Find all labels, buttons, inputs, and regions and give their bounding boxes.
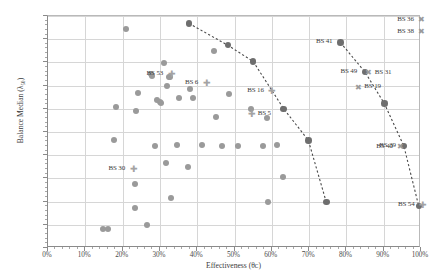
gridline-horizontal xyxy=(48,178,419,179)
gridline-horizontal xyxy=(48,132,419,133)
point-label: BS 41 xyxy=(316,37,333,45)
data-point xyxy=(135,90,141,96)
data-point xyxy=(144,222,150,228)
gridline-vertical xyxy=(346,16,347,246)
x-tick-minor xyxy=(129,247,130,249)
x-tick-mark xyxy=(84,247,85,251)
data-point xyxy=(133,108,139,114)
x-tick-minor xyxy=(99,247,100,249)
x-tick-minor xyxy=(316,247,317,249)
x-tick-minor xyxy=(166,247,167,249)
x-tick-label: 80% xyxy=(325,251,365,259)
x-tick-minor xyxy=(181,247,182,249)
plus-marker: ✚ xyxy=(268,88,275,95)
data-point xyxy=(226,91,232,97)
x-tick-mark xyxy=(196,247,197,251)
x-tick-minor xyxy=(174,247,175,249)
data-point xyxy=(211,48,217,54)
scatter-chart-figure: Balance Median (λ₅₀) Effectiveness (θᴄ) … xyxy=(0,0,444,277)
data-point xyxy=(187,86,193,92)
x-tick-minor xyxy=(248,247,249,249)
gridline-horizontal xyxy=(48,39,419,40)
y-axis-label: Balance Median (λ₅₀) xyxy=(16,31,25,191)
gridline-vertical xyxy=(309,16,310,246)
data-point xyxy=(250,58,257,65)
plus-marker: ✚ xyxy=(248,111,255,118)
data-point xyxy=(132,205,138,211)
gridline-horizontal xyxy=(48,62,419,63)
x-tick-label: 100% xyxy=(400,251,440,259)
data-point xyxy=(213,114,219,120)
point-label: BS 54 xyxy=(398,200,415,208)
x-tick-minor xyxy=(368,247,369,249)
x-tick-minor xyxy=(390,247,391,249)
plus-marker: ✚ xyxy=(168,71,175,78)
x-tick-label: 50% xyxy=(214,251,254,259)
gridline-horizontal xyxy=(48,16,419,17)
data-point xyxy=(111,137,117,143)
x-tick-minor xyxy=(398,247,399,249)
x-tick-minor xyxy=(241,247,242,249)
x-tick-minor xyxy=(301,247,302,249)
cross-marker: ✖ xyxy=(355,84,362,91)
data-point xyxy=(260,143,266,149)
gridline-vertical xyxy=(272,16,273,246)
x-tick-minor xyxy=(405,247,406,249)
gridline-vertical xyxy=(160,16,161,246)
point-label: BS 19 xyxy=(364,82,381,90)
data-point xyxy=(381,100,388,107)
plus-marker: ✚ xyxy=(130,166,137,173)
data-point xyxy=(265,199,271,205)
gridline-vertical xyxy=(123,16,124,246)
x-tick-minor xyxy=(107,247,108,249)
data-point xyxy=(152,143,158,149)
x-tick-minor xyxy=(286,247,287,249)
x-tick-mark xyxy=(234,247,235,251)
x-tick-minor xyxy=(353,247,354,249)
point-label: BS 36 xyxy=(397,15,414,23)
data-point xyxy=(199,142,205,148)
x-tick-minor xyxy=(137,247,138,249)
x-tick-mark xyxy=(308,247,309,251)
x-tick-minor xyxy=(144,247,145,249)
x-tick-minor xyxy=(114,247,115,249)
gridline-vertical xyxy=(85,16,86,246)
x-tick-mark xyxy=(271,247,272,251)
x-tick-label: 70% xyxy=(288,251,328,259)
x-tick-minor xyxy=(226,247,227,249)
point-label: BS 31 xyxy=(375,68,392,76)
data-point xyxy=(113,104,119,110)
x-axis-label: Effectiveness (θᴄ) xyxy=(47,261,420,270)
x-tick-minor xyxy=(204,247,205,249)
data-point xyxy=(337,39,344,46)
x-tick-minor xyxy=(323,247,324,249)
cross-marker: ✖ xyxy=(365,69,372,76)
point-label: BS 5 xyxy=(258,109,271,117)
data-point xyxy=(132,181,138,187)
point-label: BS 38 xyxy=(397,27,414,35)
x-tick-minor xyxy=(92,247,93,249)
data-point xyxy=(280,106,287,113)
data-point xyxy=(163,160,169,166)
x-tick-label: 60% xyxy=(251,251,291,259)
x-tick-label: 40% xyxy=(176,251,216,259)
gridline-vertical xyxy=(384,16,385,246)
data-point xyxy=(274,142,280,148)
x-tick-minor xyxy=(375,247,376,249)
point-label: BS 30 xyxy=(108,164,125,172)
x-tick-mark xyxy=(159,247,160,251)
data-point xyxy=(164,83,170,89)
gridline-horizontal xyxy=(48,109,419,110)
data-point xyxy=(280,174,286,180)
data-point xyxy=(219,143,225,149)
point-label: BS 40 xyxy=(376,142,393,150)
x-tick-minor xyxy=(54,247,55,249)
point-label: BS 53 xyxy=(147,69,164,77)
x-tick-label: 20% xyxy=(102,251,142,259)
cross-marker: ✖ xyxy=(397,143,404,150)
x-tick-minor xyxy=(330,247,331,249)
plus-marker: ✚ xyxy=(203,80,210,87)
data-point xyxy=(174,142,180,148)
point-label: BS 49 xyxy=(341,67,358,75)
x-tick-mark xyxy=(383,247,384,251)
